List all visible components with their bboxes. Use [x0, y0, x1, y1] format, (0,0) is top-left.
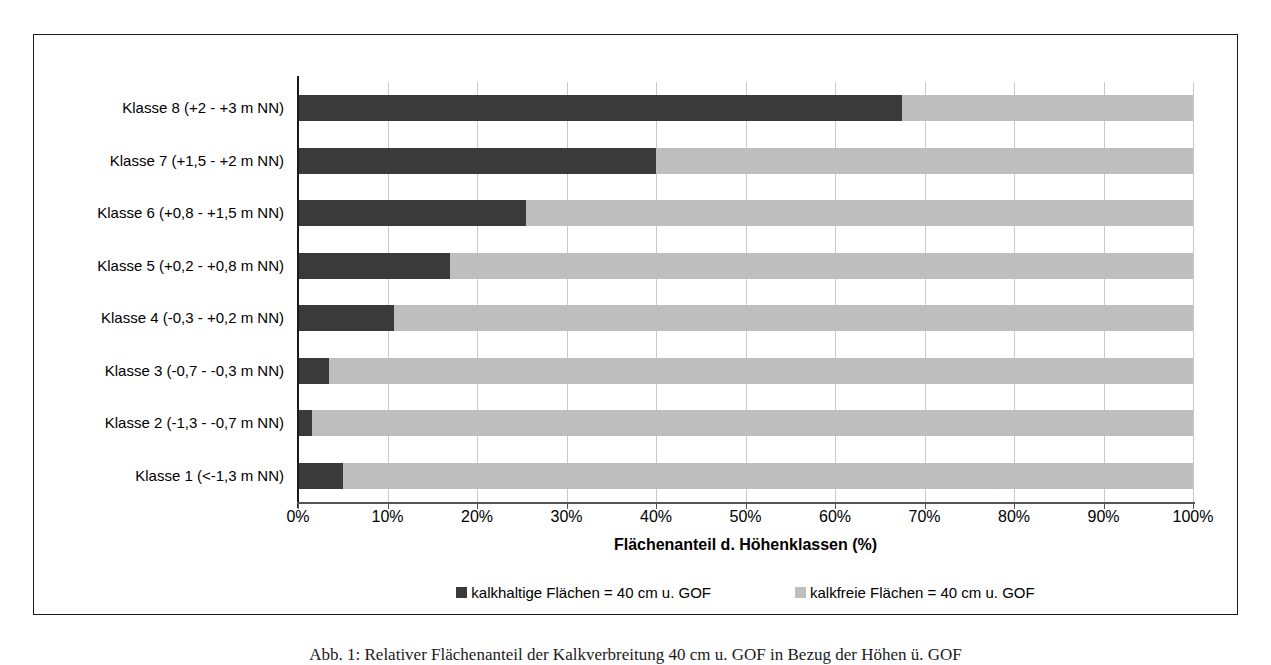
bar-row [298, 253, 1193, 279]
x-axis-tick-label: 50% [729, 508, 761, 526]
bar-segment [298, 358, 329, 384]
y-axis-category-labels: Klasse 1 (<-1,3 m NN)Klasse 2 (-1,3 - -0… [34, 82, 292, 502]
bar-row [298, 463, 1193, 489]
legend-label: kalkfreie Flächen = 40 cm u. GOF [810, 584, 1035, 601]
bar-row [298, 148, 1193, 174]
chart-frame: Klasse 1 (<-1,3 m NN)Klasse 2 (-1,3 - -0… [33, 34, 1238, 615]
bar-row [298, 200, 1193, 226]
bar-segment [298, 305, 394, 331]
legend-swatch [456, 587, 467, 598]
x-axis-tick-label: 30% [550, 508, 582, 526]
legend-item[interactable]: kalkfreie Flächen = 40 cm u. GOF [795, 584, 1035, 601]
y-axis-category-label: Klasse 7 (+1,5 - +2 m NN) [110, 153, 284, 169]
legend-item[interactable]: kalkhaltige Flächen = 40 cm u. GOF [456, 584, 711, 601]
bar-segment [394, 305, 1193, 331]
bar-segment [312, 410, 1193, 436]
bar-segment [298, 200, 526, 226]
x-axis-tick-label: 70% [908, 508, 940, 526]
gridline [1193, 82, 1194, 502]
y-axis-category-label: Klasse 1 (<-1,3 m NN) [135, 468, 284, 484]
x-axis-tick-label: 20% [461, 508, 493, 526]
bar-row [298, 305, 1193, 331]
y-axis-category-label: Klasse 4 (-0,3 - +0,2 m NN) [101, 310, 284, 326]
bar-series-group [298, 82, 1193, 502]
legend-swatch [795, 587, 806, 598]
y-axis-category-label: Klasse 2 (-1,3 - -0,7 m NN) [105, 415, 284, 431]
legend-label: kalkhaltige Flächen = 40 cm u. GOF [471, 584, 711, 601]
x-axis-tick-label: 40% [640, 508, 672, 526]
bar-segment [298, 410, 312, 436]
x-axis-tick-label: 100% [1173, 508, 1214, 526]
y-axis-category-label: Klasse 3 (-0,7 - -0,3 m NN) [105, 363, 284, 379]
bar-row [298, 358, 1193, 384]
bar-segment [343, 463, 1193, 489]
y-axis-category-label: Klasse 6 (+0,8 - +1,5 m NN) [97, 205, 284, 221]
bar-segment [902, 95, 1193, 121]
y-axis-category-label: Klasse 8 (+2 - +3 m NN) [122, 100, 284, 116]
bar-row [298, 95, 1193, 121]
bar-segment [298, 148, 656, 174]
bar-segment [298, 253, 450, 279]
bar-segment [329, 358, 1193, 384]
x-axis-tick-label: 0% [286, 508, 309, 526]
plot-area [298, 82, 1193, 502]
x-axis-tick-labels: 0%10%20%30%40%50%60%70%80%90%100% [298, 508, 1193, 532]
figure-caption: Abb. 1: Relativer Flächenanteil der Kalk… [0, 645, 1271, 665]
bar-segment [526, 200, 1193, 226]
bar-row [298, 410, 1193, 436]
y-axis-category-label: Klasse 5 (+0,2 - +0,8 m NN) [97, 258, 284, 274]
chart-legend: kalkhaltige Flächen = 40 cm u. GOFkalkfr… [298, 584, 1193, 601]
x-axis-tick-label: 60% [819, 508, 851, 526]
x-axis-tick-label: 10% [371, 508, 403, 526]
bar-segment [656, 148, 1193, 174]
x-axis-tick-label: 90% [1087, 508, 1119, 526]
x-axis-title: Flächenanteil d. Höhenklassen (%) [298, 536, 1193, 554]
bar-segment [298, 95, 902, 121]
x-axis-tick-label: 80% [998, 508, 1030, 526]
bar-segment [450, 253, 1193, 279]
bar-segment [298, 463, 343, 489]
y-axis-line [297, 76, 299, 508]
